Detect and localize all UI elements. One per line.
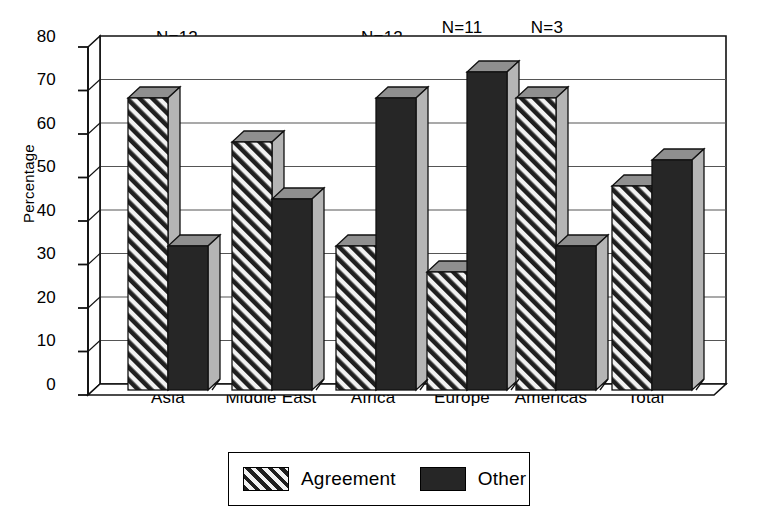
legend-label-agreement: Agreement: [301, 468, 396, 490]
bar-total-other: [652, 149, 704, 390]
legend-item-agreement: Agreement: [243, 467, 396, 491]
solid-swatch-icon: [420, 467, 466, 491]
plot-area: [0, 0, 762, 430]
bar-americas-other: [556, 235, 608, 390]
bar-asia-other: [168, 235, 220, 390]
legend: Agreement Other: [228, 452, 530, 506]
hatch-swatch-icon: [243, 467, 289, 491]
legend-label-other: Other: [478, 468, 527, 490]
bar-middle-east-other: [272, 188, 324, 390]
bar-chart: Percentage 80 70 60 50 40 30 20 10 0 N=1…: [0, 0, 762, 523]
bar-europe-other: [467, 61, 519, 390]
bar-africa-other: [376, 87, 428, 390]
legend-item-other: Other: [420, 467, 527, 491]
